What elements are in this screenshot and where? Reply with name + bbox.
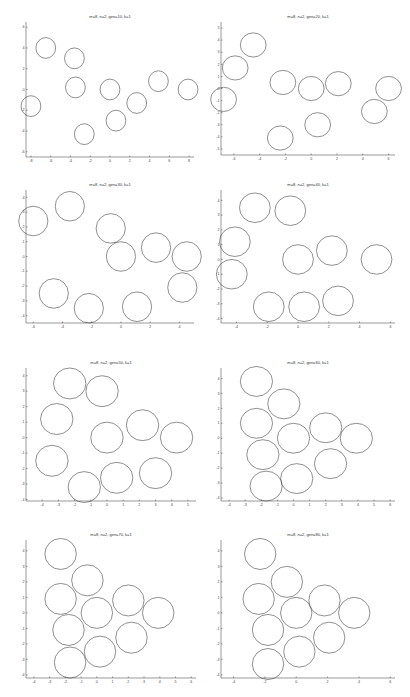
x-tick-label: -6 bbox=[32, 325, 35, 329]
x-tick-label: 4 bbox=[159, 680, 161, 684]
subplot-canvas: m=8, n=2, gen=20, k=1-6-4-20246543210-1-… bbox=[213, 14, 399, 164]
axes-lines bbox=[26, 190, 194, 323]
circle-marker bbox=[268, 389, 300, 419]
y-tick-label: 1 bbox=[23, 420, 25, 424]
x-tick-label: 5 bbox=[175, 680, 177, 684]
circle-marker bbox=[289, 292, 320, 322]
axes-lines bbox=[221, 190, 395, 323]
circle-marker bbox=[376, 76, 402, 100]
y-tick-label: -1 bbox=[216, 451, 219, 455]
x-tick-label: 6 bbox=[168, 159, 170, 163]
x-tick-label: 4 bbox=[358, 680, 360, 684]
y-tick-label: -6 bbox=[21, 150, 24, 154]
x-tick-label: -2 bbox=[90, 325, 93, 329]
circle-marker bbox=[340, 423, 372, 453]
circle-marker bbox=[316, 236, 347, 266]
circle-marker bbox=[39, 279, 68, 309]
x-tick-label: -1 bbox=[89, 503, 92, 507]
x-tick-label: 0 bbox=[310, 157, 312, 161]
circle-marker bbox=[86, 376, 118, 407]
y-tick-label: -1 bbox=[216, 272, 219, 276]
subplot-7: m=8, n=2, gen=70, k=1m=8, n=2, gen=70, k… bbox=[18, 532, 200, 687]
y-tick-label: -3 bbox=[21, 482, 24, 486]
circle-marker bbox=[54, 647, 85, 678]
x-tick-label: 4 bbox=[171, 503, 173, 507]
y-tick-label: -4 bbox=[21, 314, 24, 318]
circle-marker bbox=[240, 367, 272, 397]
y-tick-label: -3 bbox=[216, 302, 219, 306]
y-tick-label: 4 bbox=[23, 374, 25, 378]
y-tick-label: -4 bbox=[21, 498, 24, 502]
circle-marker bbox=[96, 214, 125, 244]
x-tick-label: 2 bbox=[325, 503, 327, 507]
circle-marker bbox=[106, 110, 126, 131]
circle-marker bbox=[81, 597, 112, 628]
circle-marker bbox=[74, 124, 94, 145]
y-tick-label: -3 bbox=[216, 658, 219, 662]
x-tick-label: -3 bbox=[57, 503, 60, 507]
x-tick-label: 2 bbox=[327, 680, 329, 684]
circle-marker bbox=[281, 597, 312, 628]
y-tick-label: 0 bbox=[218, 258, 220, 262]
y-tick-label: -1 bbox=[216, 627, 219, 631]
y-tick-label: 0 bbox=[218, 436, 220, 440]
subplot-title: m=8, n=2, gen=80, k=1 bbox=[287, 532, 329, 537]
x-tick-label: 4 bbox=[178, 325, 180, 329]
y-tick-label: 1 bbox=[23, 596, 25, 600]
subplot-title: m=8, n=2, gen=20, k=1 bbox=[287, 14, 329, 19]
y-tick-label: -4 bbox=[216, 135, 219, 139]
y-tick-label: -4 bbox=[21, 129, 24, 133]
x-tick-label: 2 bbox=[336, 157, 338, 161]
y-tick-label: -4 bbox=[21, 673, 24, 677]
circle-marker bbox=[116, 622, 147, 653]
x-tick-label: 6 bbox=[389, 680, 391, 684]
subplot-4: m=8, n=2, gen=40, k=1m=8, n=2, gen=40, k… bbox=[213, 182, 399, 332]
circle-marker bbox=[178, 79, 198, 100]
y-tick-label: -1 bbox=[216, 99, 219, 103]
axes-lines bbox=[221, 540, 395, 678]
y-tick-label: -3 bbox=[21, 658, 24, 662]
circle-marker bbox=[72, 565, 103, 596]
y-tick-label: 3 bbox=[218, 392, 220, 396]
x-tick-label: -4 bbox=[258, 157, 261, 161]
circle-marker bbox=[310, 413, 342, 443]
circle-marker bbox=[281, 464, 313, 494]
circle-marker bbox=[100, 79, 120, 100]
x-tick-label: 6 bbox=[190, 680, 192, 684]
circle-marker bbox=[250, 471, 282, 501]
y-tick-label: 4 bbox=[23, 46, 25, 50]
y-tick-label: -1 bbox=[21, 269, 24, 273]
x-tick-label: -1 bbox=[276, 503, 279, 507]
x-tick-label: 1 bbox=[122, 503, 124, 507]
x-tick-label: 0 bbox=[96, 680, 98, 684]
x-tick-label: 6 bbox=[389, 503, 391, 507]
x-tick-label: -2 bbox=[64, 680, 67, 684]
x-tick-label: -1 bbox=[79, 680, 82, 684]
x-tick-label: 8 bbox=[188, 159, 190, 163]
y-tick-label: 0 bbox=[23, 436, 25, 440]
x-tick-label: -4 bbox=[69, 159, 72, 163]
y-tick-label: 2 bbox=[218, 228, 220, 232]
y-tick-label: 2 bbox=[23, 225, 25, 229]
subplot-canvas: m=8, n=2, gen=60, k=1-4-3-2-101234564321… bbox=[213, 360, 399, 510]
y-tick-label: 6 bbox=[23, 25, 25, 29]
subplot-title: m=8, n=2, gen=10, k=1 bbox=[89, 14, 131, 19]
circle-marker bbox=[84, 636, 115, 667]
circle-marker bbox=[270, 70, 296, 94]
y-tick-label: 1 bbox=[218, 243, 220, 247]
x-tick-label: 0 bbox=[120, 325, 122, 329]
x-tick-label: 4 bbox=[149, 159, 151, 163]
y-tick-label: 2 bbox=[218, 63, 220, 67]
y-tick-label: -5 bbox=[216, 147, 219, 151]
x-tick-label: 0 bbox=[293, 503, 295, 507]
circle-marker bbox=[141, 233, 170, 263]
circle-marker bbox=[68, 472, 100, 503]
circle-marker bbox=[239, 193, 270, 223]
y-tick-label: 1 bbox=[218, 421, 220, 425]
subplot-5: m=8, n=2, gen=50, k=1m=8, n=2, gen=50, k… bbox=[18, 360, 200, 510]
x-tick-label: 4 bbox=[359, 325, 361, 329]
y-tick-label: 2 bbox=[218, 580, 220, 584]
y-tick-label: 1 bbox=[218, 596, 220, 600]
circle-marker bbox=[127, 93, 147, 114]
figure-grid: m=8, n=2, gen=10, k=1m=8, n=2, gen=10, k… bbox=[0, 0, 410, 697]
